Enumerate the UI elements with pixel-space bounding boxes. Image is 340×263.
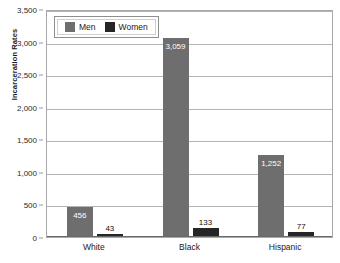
legend-swatch-women-icon <box>105 22 115 32</box>
bar-value-label: 1,252 <box>258 159 284 168</box>
legend-item-women[interactable]: Women <box>105 22 148 32</box>
legend-item-men[interactable]: Men <box>65 22 96 32</box>
x-category-label-white: White <box>83 242 105 252</box>
legend-label-men: Men <box>79 22 96 32</box>
bars-layer: 456433,0591331,25277 <box>47 11 332 237</box>
y-tick-mark <box>39 42 43 43</box>
x-axis-categories: WhiteBlackHispanic <box>46 242 333 260</box>
y-tick-label: 3,000 <box>17 38 37 47</box>
y-tick-mark <box>39 140 43 141</box>
x-category-label-black: Black <box>179 242 200 252</box>
y-tick-label: 1,000 <box>17 168 37 177</box>
y-tick-label: 1,500 <box>17 136 37 145</box>
y-tick-label: 2,000 <box>17 103 37 112</box>
x-category-label-hispanic: Hispanic <box>269 242 302 252</box>
legend-swatch-men-icon <box>65 22 75 32</box>
y-tick-mark <box>39 172 43 173</box>
y-tick-label: 3,500 <box>17 6 37 15</box>
plot-area: 456433,0591331,25277 Men Women <box>46 10 333 238</box>
x-axis-baseline <box>47 236 332 237</box>
bar-value-label: 77 <box>288 222 314 231</box>
y-tick-label: 500 <box>24 201 37 210</box>
y-tick-mark <box>39 238 43 239</box>
y-axis-ticks: 05001,0001,5002,0002,5003,0003,500 <box>0 0 44 263</box>
y-tick-label: 2,500 <box>17 71 37 80</box>
y-tick-mark <box>39 10 43 11</box>
bar-value-label: 133 <box>193 218 219 227</box>
legend: Men Women <box>54 16 159 38</box>
bar-black-men[interactable] <box>163 38 189 237</box>
y-tick-mark <box>39 75 43 76</box>
y-tick-label: 0 <box>33 234 37 243</box>
legend-label-women: Women <box>119 22 148 32</box>
bar-value-label: 3,059 <box>163 42 189 51</box>
y-tick-mark <box>39 205 43 206</box>
bar-value-label: 456 <box>67 211 93 220</box>
bar-chart: Incarceration Rates 05001,0001,5002,0002… <box>0 0 340 263</box>
bar-value-label: 43 <box>97 224 123 233</box>
y-tick-mark <box>39 107 43 108</box>
